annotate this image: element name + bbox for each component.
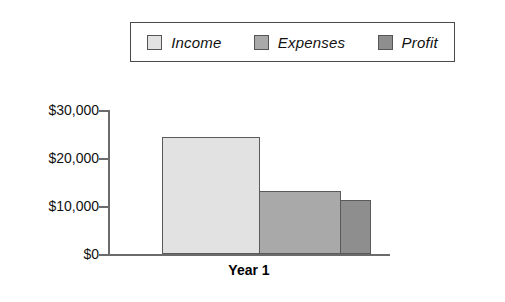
bar-chart: Income Expenses Profit $30,000 $20,000 $…	[0, 0, 505, 302]
plot-area: $30,000 $20,000 $10,000 $0 Year 1	[0, 0, 505, 302]
y-tick-label-0: $0	[7, 246, 99, 262]
x-axis-label: Year 1	[108, 262, 390, 278]
x-axis-line	[108, 254, 390, 256]
y-tick-mark-30000	[99, 110, 108, 112]
y-tick-label-30000: $30,000	[7, 102, 99, 118]
y-tick-label-20000: $20,000	[7, 150, 99, 166]
y-tick-label-10000: $10,000	[7, 198, 99, 214]
y-axis-tick-labels: $30,000 $20,000 $10,000 $0	[0, 0, 99, 302]
y-axis-line	[108, 110, 110, 256]
bar-profit[interactable]	[340, 200, 371, 254]
y-tick-mark-10000	[99, 206, 108, 208]
bar-income[interactable]	[162, 137, 260, 254]
y-tick-mark-20000	[99, 158, 108, 160]
bar-expenses[interactable]	[259, 191, 341, 254]
y-tick-mark-0	[99, 254, 108, 256]
